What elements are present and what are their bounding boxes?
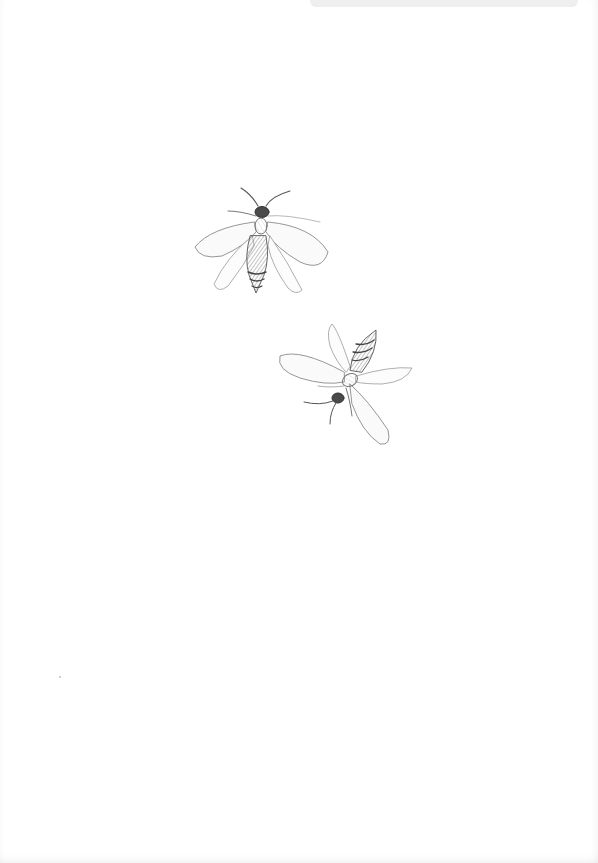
insect-bottom	[279, 324, 412, 444]
drawing	[0, 0, 598, 863]
insect-top	[195, 188, 328, 293]
paper-sheet	[0, 0, 598, 863]
